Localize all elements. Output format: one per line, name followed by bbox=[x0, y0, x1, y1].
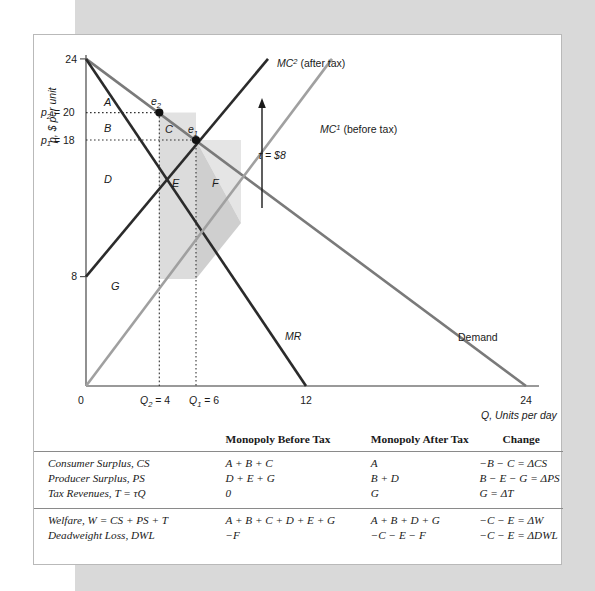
mc2-curve-label: MC2 (after tax) bbox=[277, 57, 345, 70]
header-row-label bbox=[34, 433, 225, 449]
row-label-consumer-surplus: Consumer Surplus, CS bbox=[48, 457, 150, 469]
point-e2-marker bbox=[155, 109, 163, 117]
cell-dwl-after: −C − E − F bbox=[371, 529, 426, 541]
x-tick-label-q2: Q2 = 4 bbox=[140, 394, 170, 409]
table-row: Deadweight Loss, DWL −F −C − E − F −C − … bbox=[34, 527, 563, 542]
region-label-D: D bbox=[104, 173, 112, 185]
table-row: Tax Revenues, T = τQ 0 G G = ΔT bbox=[34, 486, 563, 505]
cell-tr-before: 0 bbox=[225, 487, 231, 499]
x-tick-label-12: 12 bbox=[300, 394, 312, 406]
cell-dwl-change: −C − E = ΔDWL bbox=[479, 529, 557, 541]
chart-plot-area: 24 8 p2 = 20 p1 = 18 0 Q2 = 4 Q1 = 6 12 … bbox=[34, 35, 563, 435]
region-label-C: C bbox=[165, 123, 173, 135]
cell-w-change: −C − E = ΔW bbox=[479, 514, 543, 526]
table-body: Consumer Surplus, CS A + B + C A −B − C … bbox=[34, 452, 563, 543]
y-tick-label-8: 8 bbox=[71, 270, 77, 282]
table: Monopoly Before Tax Monopoly After Tax C… bbox=[34, 433, 563, 542]
region-label-G: G bbox=[111, 280, 120, 292]
cell-cs-after: A bbox=[371, 457, 378, 469]
demand-curve-label: Demand bbox=[458, 331, 498, 343]
table-row: Consumer Surplus, CS A + B + C A −B − C … bbox=[34, 452, 563, 471]
cell-cs-change: −B − C = ΔCS bbox=[479, 457, 547, 469]
cell-w-before: A + B + C + D + E + G bbox=[225, 514, 335, 526]
cell-dwl-before: −F bbox=[225, 529, 239, 541]
header-before-tax: Monopoly Before Tax bbox=[225, 433, 370, 449]
row-label-producer-surplus: Producer Surplus, PS bbox=[48, 472, 145, 484]
table-row: Welfare, W = CS + PS + T A + B + C + D +… bbox=[34, 508, 563, 527]
tax-arrow-label: τ = $8 bbox=[258, 149, 286, 161]
y-tick-label-24: 24 bbox=[65, 53, 77, 65]
row-label-tax-revenues: Tax Revenues, T = τQ bbox=[48, 487, 146, 499]
y-axis-title: p, $ per unit bbox=[46, 86, 58, 144]
welfare-summary-table: Monopoly Before Tax Monopoly After Tax C… bbox=[34, 433, 563, 542]
x-tick-label-q1: Q1 = 6 bbox=[189, 394, 219, 409]
region-label-B: B bbox=[104, 122, 111, 134]
header-after-tax: Monopoly After Tax bbox=[371, 433, 480, 449]
cell-tr-after: G bbox=[371, 487, 379, 499]
cell-ps-change: B − E − G = ΔPS bbox=[479, 472, 559, 484]
x-tick-label-24: 24 bbox=[520, 394, 532, 406]
cell-w-after: A + B + D + G bbox=[371, 514, 440, 526]
figure-card: 24 8 p2 = 20 p1 = 18 0 Q2 = 4 Q1 = 6 12 … bbox=[33, 34, 562, 565]
cell-ps-before: D + E + G bbox=[225, 472, 274, 484]
row-label-welfare: Welfare, W = CS + PS + T bbox=[48, 514, 168, 526]
region-label-E: E bbox=[172, 177, 180, 189]
table-header-row: Monopoly Before Tax Monopoly After Tax C… bbox=[34, 433, 563, 449]
cell-ps-after: B + D bbox=[371, 472, 399, 484]
cell-cs-before: A + B + C bbox=[225, 457, 272, 469]
mc1-curve-label: MC1 (before tax) bbox=[320, 123, 397, 136]
header-change: Change bbox=[479, 433, 563, 449]
x-axis-title: Q, Units per day bbox=[481, 409, 558, 421]
table-row: Producer Surplus, PS D + E + G B + D B −… bbox=[34, 471, 563, 486]
cell-tr-change: G = ΔT bbox=[479, 487, 513, 499]
table-head: Monopoly Before Tax Monopoly After Tax C… bbox=[34, 433, 563, 452]
region-label-A: A bbox=[103, 96, 111, 108]
x-tick-label-0: 0 bbox=[78, 394, 84, 406]
mr-curve-label: MR bbox=[285, 330, 302, 342]
row-label-dwl: Deadweight Loss, DWL bbox=[48, 529, 155, 541]
